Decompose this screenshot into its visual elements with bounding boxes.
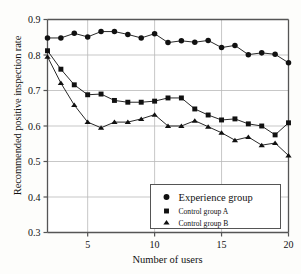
legend-label: Control group A	[179, 207, 229, 216]
data-point	[206, 113, 211, 118]
data-point	[165, 40, 171, 46]
x-tick-label: 10	[150, 239, 160, 250]
data-point	[259, 50, 265, 56]
y-tick-label: 0.5	[28, 156, 41, 167]
chart-plot-area: 0.30.40.50.60.70.80.95101520Experience g…	[0, 0, 301, 274]
data-point	[112, 98, 117, 103]
data-point	[112, 29, 118, 35]
y-tick-label: 0.7	[28, 85, 41, 96]
data-point	[205, 38, 211, 44]
x-tick-label: 5	[85, 239, 90, 250]
data-point	[125, 32, 131, 38]
y-tick-label: 0.9	[28, 14, 41, 25]
legend-marker-circle	[164, 194, 170, 200]
y-tick-label: 0.6	[28, 121, 41, 132]
x-tick-label: 15	[217, 239, 227, 250]
x-tick-label: 20	[284, 239, 294, 250]
data-point	[139, 100, 144, 105]
data-point	[72, 31, 78, 37]
y-tick-label: 0.3	[28, 227, 41, 238]
chart-figure: Recommended positive inspection rate Num…	[0, 0, 301, 274]
data-point	[179, 38, 185, 44]
legend-label: Experience group	[179, 192, 253, 203]
data-point	[286, 120, 291, 125]
data-point	[232, 116, 237, 121]
data-point	[219, 45, 225, 51]
data-point	[273, 132, 278, 137]
data-point	[272, 52, 278, 58]
data-point	[45, 35, 51, 41]
data-point	[192, 39, 198, 45]
data-point	[99, 92, 104, 97]
data-point	[72, 82, 77, 87]
y-tick-label: 0.8	[28, 50, 41, 61]
legend-marker-square	[164, 209, 169, 214]
data-point	[286, 60, 292, 66]
legend-label: Control group B	[179, 219, 229, 228]
data-point	[219, 118, 224, 123]
data-point	[152, 31, 158, 37]
data-point	[246, 121, 251, 126]
data-point	[85, 92, 90, 97]
data-point	[152, 99, 157, 104]
data-point	[45, 48, 50, 53]
y-tick-label: 0.4	[28, 192, 41, 203]
data-point	[85, 34, 91, 40]
data-point	[138, 35, 144, 41]
chart-legend: Experience groupControl group AControl g…	[151, 185, 281, 229]
data-point	[232, 43, 238, 49]
data-point	[259, 124, 264, 129]
data-point	[58, 67, 63, 72]
data-point	[166, 95, 171, 100]
data-point	[246, 52, 252, 58]
data-point	[192, 106, 197, 111]
data-point	[58, 35, 64, 41]
data-point	[98, 29, 104, 35]
data-point	[125, 100, 130, 105]
data-point	[179, 95, 184, 100]
